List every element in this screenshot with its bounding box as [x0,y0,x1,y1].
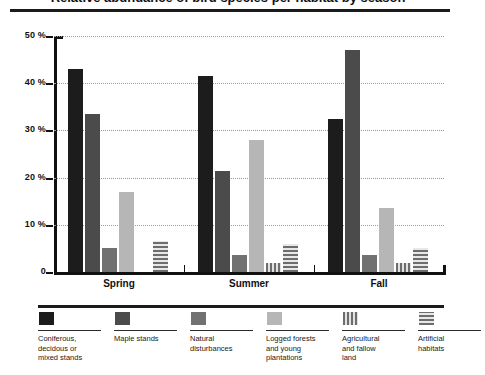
chart-title-clipped: Relative abundance of bird species per h… [0,0,456,7]
y-axis-label: 50 % [2,30,46,40]
bar [249,140,264,272]
legend-swatch-icon [266,311,283,326]
group-separator [314,265,315,273]
legend-item[interactable]: Logged forests and young plantations [266,311,334,363]
legend-swatch-icon [418,311,435,326]
bar [283,244,298,272]
chart-legend: Coniferous, decidous or mixed standsMapl… [20,305,444,375]
y-axis-tick [46,178,53,180]
bar [379,208,394,272]
bar [215,171,230,272]
y-axis-label: 20 % [2,172,46,182]
bar-series-layer [54,36,444,272]
legend-label: Natural disturbances [190,334,258,353]
y-axis-label: 40 % [2,77,46,87]
legend-item[interactable]: Natural disturbances [190,311,258,353]
bar [328,119,343,272]
page-title: Relative abundance of bird species per h… [0,0,456,7]
y-axis-label: 30 % [2,124,46,134]
plot-area [54,36,444,272]
legend-swatch-icon [190,311,207,326]
y-axis-label: 0 [2,266,46,276]
bar [345,50,360,272]
y-axis-tick [46,272,53,274]
y-axis-tick [46,36,53,38]
legend-label: Maple stands [114,334,182,344]
header-rule [10,9,450,12]
x-axis-category-spring: Spring [54,278,184,289]
group-separator [184,265,185,273]
legend-label: Agricultural and fallow land [342,334,410,363]
x-axis-category-summer: Summer [184,278,314,289]
legend-swatch-icon [342,311,359,326]
legend-item[interactable]: Artificial habitats [418,311,485,353]
bar [232,255,247,272]
bar [119,192,134,272]
legend-item[interactable]: Maple stands [114,311,182,344]
legend-swatch-icon [114,311,131,326]
legend-label: Logged forests and young plantations [266,334,334,363]
legend-label: Coniferous, decidous or mixed stands [38,334,106,363]
bar [68,69,83,272]
legend-underline [266,330,329,331]
y-axis-tick [46,83,53,85]
legend-item[interactable]: Agricultural and fallow land [342,311,410,363]
bar [102,248,117,272]
bar [413,248,428,272]
legend-rule [38,305,444,308]
legend-item[interactable]: Coniferous, decidous or mixed stands [38,311,106,363]
x-axis-category-fall: Fall [314,278,444,289]
x-axis-line [54,272,446,275]
legend-underline [190,330,253,331]
bar [362,255,377,272]
y-axis-label: 10 % [2,219,46,229]
y-axis-tick [46,225,53,227]
bar [153,241,168,272]
legend-underline [418,330,481,331]
legend-underline [342,330,405,331]
bar [198,76,213,272]
legend-underline [114,330,177,331]
legend-label: Artificial habitats [418,334,485,353]
bar [266,263,281,272]
legend-underline [38,330,101,331]
y-axis-tick [46,130,53,132]
legend-swatch-icon [38,311,55,326]
bar [85,114,100,272]
bar [396,263,411,272]
